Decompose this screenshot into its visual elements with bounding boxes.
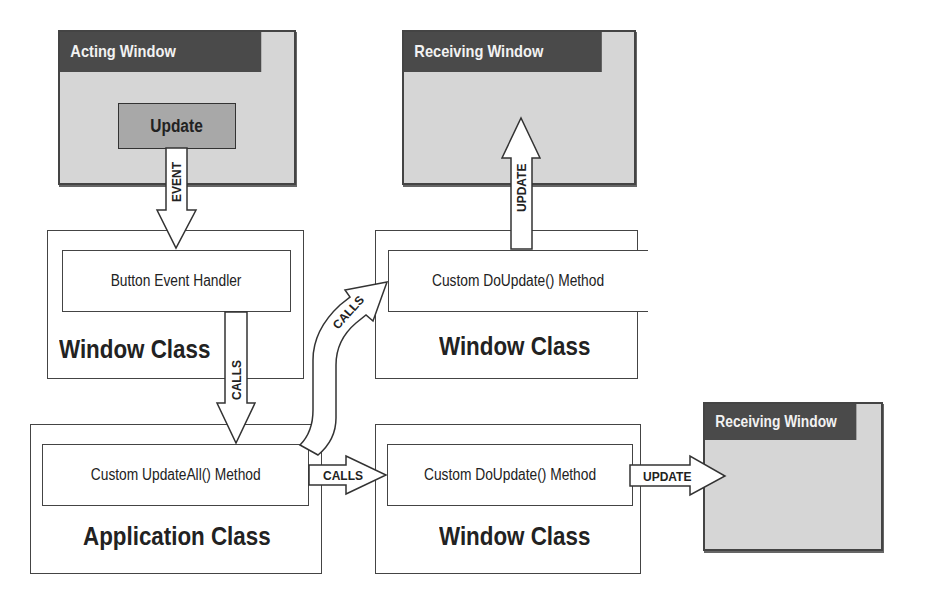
update-right-arrow: UPDATE — [630, 456, 725, 495]
calls-down-arrow-label: CALLS — [230, 360, 244, 400]
calls-curved-arrow: CALLS — [300, 282, 387, 455]
event-arrow: EVENT — [157, 148, 196, 248]
calls-right-arrow: CALLS — [309, 456, 386, 494]
update-up-arrow: UPDATE — [502, 118, 540, 249]
arrows-layer: EVENT CALLS UPDATE CALLS CALLS UPDATE — [0, 0, 933, 604]
update-up-arrow-label: UPDATE — [515, 164, 529, 212]
calls-down-arrow: CALLS — [217, 312, 255, 443]
calls-right-arrow-label: CALLS — [323, 469, 363, 483]
update-right-arrow-label: UPDATE — [643, 470, 691, 484]
event-arrow-label: EVENT — [170, 161, 184, 202]
